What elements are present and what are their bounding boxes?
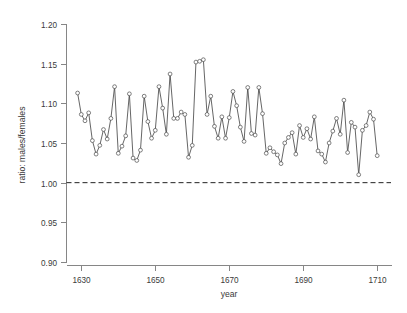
data-point <box>164 132 168 136</box>
data-point <box>294 152 298 156</box>
data-point <box>135 159 139 163</box>
data-point <box>98 143 102 147</box>
data-point <box>90 139 94 143</box>
data-point <box>327 141 331 145</box>
data-point <box>264 151 268 155</box>
data-point <box>139 148 143 152</box>
y-tick-label: 1.20 <box>41 21 57 30</box>
data-point <box>261 112 265 116</box>
data-point <box>153 128 157 132</box>
data-point <box>372 117 376 121</box>
data-point <box>105 137 109 141</box>
data-point <box>324 160 328 164</box>
data-point <box>231 90 235 94</box>
data-point <box>190 143 194 147</box>
data-point <box>250 132 254 136</box>
x-axis-title: year <box>221 289 238 299</box>
x-tick-label: 1650 <box>146 276 165 285</box>
data-point <box>83 119 87 123</box>
data-point <box>298 124 302 128</box>
data-point <box>187 155 191 159</box>
data-point <box>183 113 187 117</box>
data-point <box>161 106 165 110</box>
data-point <box>257 86 261 90</box>
data-point <box>290 131 294 135</box>
data-point <box>316 149 320 153</box>
data-point <box>198 59 202 63</box>
data-point <box>349 120 353 124</box>
chart-figure: 0.900.951.001.051.101.151.20 16301650167… <box>0 0 407 313</box>
y-tick-label: 1.15 <box>41 61 57 70</box>
data-point <box>301 136 305 140</box>
data-point <box>338 132 342 136</box>
data-point <box>335 117 339 121</box>
data-point <box>320 152 324 156</box>
data-point <box>305 127 309 131</box>
data-point <box>220 115 224 119</box>
data-point <box>131 156 135 160</box>
data-point <box>179 110 183 114</box>
data-point <box>361 128 365 132</box>
y-axis-title: ratio: males/females <box>17 107 27 184</box>
data-point <box>213 124 217 128</box>
y-axis-tick-labels: 0.900.951.001.051.101.151.20 <box>41 21 57 268</box>
data-point <box>113 85 117 89</box>
data-point <box>279 162 283 166</box>
data-point <box>150 136 154 140</box>
y-tick-label: 1.10 <box>41 100 57 109</box>
data-point <box>268 146 272 150</box>
data-point <box>127 92 131 96</box>
data-point <box>235 104 239 108</box>
data-point <box>172 117 176 121</box>
x-tick-label: 1630 <box>72 276 91 285</box>
data-point <box>283 141 287 145</box>
data-point <box>368 110 372 114</box>
x-tick-label: 1710 <box>368 276 387 285</box>
data-point <box>246 86 250 90</box>
x-axis-tick-marks <box>82 266 378 272</box>
data-point <box>209 94 213 98</box>
data-point <box>205 113 209 117</box>
data-point <box>238 125 242 129</box>
y-tick-label: 0.95 <box>41 219 57 228</box>
x-tick-label: 1670 <box>220 276 239 285</box>
data-point <box>253 133 257 137</box>
data-point <box>312 115 316 119</box>
data-point <box>157 85 161 89</box>
data-point <box>76 91 80 95</box>
data-point <box>116 151 120 155</box>
data-point <box>309 137 313 141</box>
data-point <box>168 72 172 76</box>
x-axis-tick-labels: 16301650167016901710 <box>72 276 387 285</box>
data-point <box>79 113 83 117</box>
data-point <box>194 60 198 64</box>
data-point <box>201 58 205 62</box>
data-point <box>342 98 346 102</box>
data-point <box>364 124 368 128</box>
y-tick-label: 1.00 <box>41 180 57 189</box>
data-point <box>353 125 357 129</box>
y-tick-label: 0.90 <box>41 259 57 268</box>
data-point <box>102 128 106 132</box>
data-point <box>375 154 379 158</box>
data-point <box>331 129 335 133</box>
data-point <box>176 117 180 121</box>
data-point <box>287 136 291 140</box>
data-point <box>346 151 350 155</box>
y-axis-tick-marks <box>61 25 67 263</box>
data-point <box>357 173 361 177</box>
data-point <box>94 152 98 156</box>
data-point <box>142 94 146 98</box>
data-point <box>109 117 113 121</box>
data-point <box>146 120 150 124</box>
data-point <box>275 153 279 157</box>
data-point <box>227 116 231 120</box>
data-point <box>216 136 220 140</box>
data-point <box>242 140 246 144</box>
data-point <box>272 150 276 154</box>
y-tick-label: 1.05 <box>41 140 57 149</box>
data-point <box>87 111 91 115</box>
line-chart-canvas: 0.900.951.001.051.101.151.20 16301650167… <box>0 0 407 313</box>
data-point <box>224 136 228 140</box>
data-point <box>120 144 124 148</box>
